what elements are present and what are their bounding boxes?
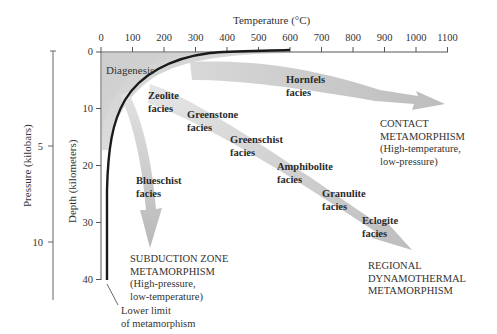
subduction-zone-metamorphism-label: SUBDUCTION ZONE METAMORPHISM (High-press… <box>130 253 228 303</box>
temperature-tick-800: 800 <box>345 33 361 44</box>
temperature-tick-900: 900 <box>377 33 393 44</box>
depth-tick-0: 0 <box>73 46 93 57</box>
temperature-tick-700: 700 <box>314 33 330 44</box>
pressure-axis-title: Pressure (kilobars) <box>21 124 33 207</box>
subduction-arrow <box>120 92 162 248</box>
greenstone-facies-label: Greenstone facies <box>187 108 238 134</box>
temperature-tick-100: 100 <box>125 33 141 44</box>
depth-tick-40: 40 <box>73 274 93 285</box>
annotation-leader-line <box>107 284 118 305</box>
depth-axis-title: Depth (kilometers) <box>66 140 78 223</box>
greenschist-facies-label: Greenschist facies <box>230 133 283 159</box>
temperature-tick-1000: 1000 <box>406 33 427 44</box>
pressure-tick-10: 10 <box>23 237 43 248</box>
depth-axis-ticks <box>96 52 101 280</box>
temperature-tick-200: 200 <box>156 33 172 44</box>
granulite-facies-label: Granulite facies <box>322 187 366 213</box>
hornfels-facies-label: Hornfels facies <box>286 73 325 99</box>
amphibolite-facies-label: Amphibolite facies <box>277 160 333 186</box>
temperature-tick-500: 500 <box>251 33 267 44</box>
regional-dynamothermal-metamorphism-label: REGIONAL DYNAMOTHERMAL METAMORPHISM <box>368 260 466 298</box>
metamorphic-facies-diagram: Temperature (°C) 0 100 200 300 400 500 6… <box>0 0 497 334</box>
blueschist-facies-label: Blueschist facies <box>136 174 182 200</box>
depth-tick-10: 10 <box>73 103 93 114</box>
pressure-axis-ticks <box>48 51 56 242</box>
temperature-tick-300: 300 <box>188 33 204 44</box>
temperature-axis-title: Temperature (°C) <box>233 15 310 26</box>
contact-metamorphism-label: CONTACT METAMORPHISM (High-temperature, … <box>380 118 465 168</box>
diagenesis-label: Diagenesis <box>106 64 154 76</box>
temperature-tick-1100: 1100 <box>437 33 458 44</box>
temperature-tick-600: 600 <box>282 33 298 44</box>
eclogite-facies-label: Eclogite facies <box>362 214 398 240</box>
lower-limit-annotation: Lower limit of metamorphism <box>121 305 195 330</box>
zeolite-facies-label: Zeolite facies <box>148 89 179 115</box>
temperature-tick-400: 400 <box>219 33 235 44</box>
temperature-tick-0: 0 <box>98 33 103 44</box>
